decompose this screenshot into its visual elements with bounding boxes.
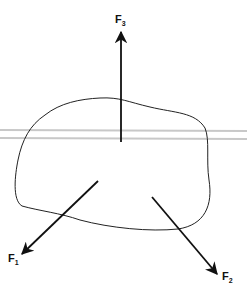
reference-plane (0, 130, 247, 139)
force-label-f3: F3 (115, 13, 126, 27)
free-body-diagram: F3 F1 F2 (0, 0, 247, 288)
force-label-f2: F2 (222, 270, 233, 284)
plane-line-bottom (0, 138, 247, 139)
force-arrow-f1 (22, 181, 98, 254)
plane-line-top (0, 130, 247, 131)
force-label-f1: F1 (8, 252, 19, 266)
body-outline (15, 98, 210, 230)
